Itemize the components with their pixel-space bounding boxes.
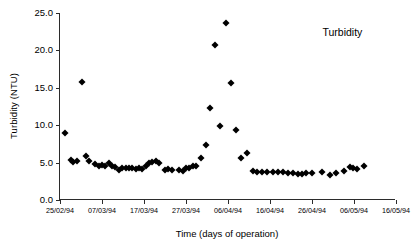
y-tick-label: 5.0 bbox=[40, 158, 53, 168]
x-tick-label: 07/03/94 bbox=[88, 206, 116, 215]
data-point bbox=[61, 129, 68, 136]
y-axis-title: Turbidity (NTU) bbox=[7, 13, 21, 200]
x-tick-label: 16/04/94 bbox=[256, 206, 284, 215]
y-tick-label: 10.0 bbox=[35, 120, 54, 130]
data-point bbox=[232, 126, 239, 133]
y-tick-mark bbox=[56, 163, 60, 164]
x-tick-mark bbox=[354, 200, 355, 204]
data-point bbox=[78, 78, 85, 85]
data-point bbox=[212, 42, 219, 49]
data-point bbox=[203, 141, 210, 148]
x-tick-mark bbox=[270, 200, 271, 204]
data-point bbox=[207, 104, 214, 111]
turbidity-scatter-chart: Turbidity (NTU) 0.05.010.015.020.025.0 2… bbox=[0, 0, 420, 249]
data-point bbox=[228, 80, 235, 87]
data-point bbox=[319, 169, 326, 176]
data-point bbox=[223, 20, 230, 27]
y-tick-label: 15.0 bbox=[35, 83, 54, 93]
x-tick-label: 06/05/94 bbox=[340, 206, 368, 215]
x-tick-label: 26/04/94 bbox=[298, 206, 326, 215]
x-tick-label: 06/04/94 bbox=[214, 206, 242, 215]
x-tick-mark bbox=[186, 200, 187, 204]
y-tick-mark bbox=[56, 88, 60, 89]
x-tick-mark bbox=[102, 200, 103, 204]
x-tick-label: 27/03/94 bbox=[172, 206, 200, 215]
data-point bbox=[156, 160, 163, 167]
data-point bbox=[244, 149, 251, 156]
x-tick-mark bbox=[312, 200, 313, 204]
x-axis-title: Time (days of operation) bbox=[59, 228, 395, 240]
plot-area: 0.05.010.015.020.025.0 25/02/9407/03/941… bbox=[59, 13, 395, 200]
data-point bbox=[168, 167, 175, 174]
data-point bbox=[198, 155, 205, 162]
data-point bbox=[361, 162, 368, 169]
y-tick-mark bbox=[56, 125, 60, 126]
data-point bbox=[238, 155, 245, 162]
series-annotation-label: Turbidity bbox=[323, 26, 363, 38]
data-point bbox=[340, 167, 347, 174]
x-tick-label: 25/02/94 bbox=[46, 206, 74, 215]
x-tick-mark bbox=[144, 200, 145, 204]
x-tick-mark bbox=[228, 200, 229, 204]
y-tick-mark bbox=[56, 50, 60, 51]
data-point bbox=[193, 162, 200, 169]
data-point bbox=[217, 122, 224, 129]
x-tick-label: 17/03/94 bbox=[130, 206, 158, 215]
x-tick-label: 16/05/94 bbox=[382, 206, 410, 215]
y-tick-label: 0.0 bbox=[40, 195, 53, 205]
x-tick-mark bbox=[60, 200, 61, 204]
y-tick-label: 25.0 bbox=[35, 8, 54, 18]
data-point bbox=[332, 170, 339, 177]
y-tick-label: 20.0 bbox=[35, 45, 54, 55]
y-tick-mark bbox=[56, 13, 60, 14]
x-tick-mark bbox=[396, 200, 397, 204]
data-point bbox=[308, 170, 315, 177]
